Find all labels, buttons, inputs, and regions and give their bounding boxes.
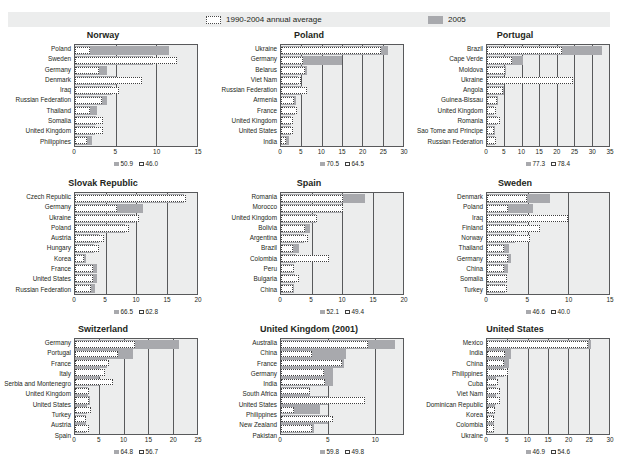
bar-annual-average: [281, 107, 297, 113]
footnote-swatch-avg-icon: [551, 310, 556, 314]
x-tick-label: 0: [484, 296, 488, 304]
plot-row: PolandSwedenGermanyDenmarkIraqRussian Fe…: [0, 44, 206, 147]
panel-footnote: 52.149.4: [280, 308, 404, 316]
bar-annual-average: [281, 47, 381, 53]
x-tick-label: 20: [170, 436, 177, 444]
footnote-swatch-avg-icon: [139, 310, 144, 314]
bar-slot: [75, 116, 197, 125]
category-label: Pakistan: [206, 431, 277, 441]
category-label: Bulgaria: [206, 274, 277, 284]
footnote-value-average: 64.5: [352, 160, 364, 167]
category-label: Thailand: [412, 243, 483, 253]
bar-annual-average: [487, 245, 504, 251]
category-label: United States: [206, 400, 277, 410]
bar-annual-average: [281, 351, 312, 357]
category-label: Ukraine: [412, 75, 483, 85]
x-tick-label: 15: [163, 296, 170, 304]
category-label: Germany: [0, 65, 71, 75]
footnote-swatch-2005-icon: [526, 450, 531, 454]
x-tick-label: 0: [484, 148, 488, 156]
legend-swatch-2005-icon: [428, 16, 443, 24]
bar-slot: [75, 86, 197, 95]
bar-group: [75, 45, 197, 146]
category-label: Sweden: [0, 54, 71, 64]
bar-slot: [487, 254, 609, 263]
x-tick-label: 5: [526, 296, 530, 304]
category-label: France: [206, 106, 277, 116]
legend-entry-2005: 2005: [428, 16, 466, 24]
category-label: Ukraine: [412, 431, 483, 441]
bar-annual-average: [281, 57, 303, 63]
bar-slot: [75, 340, 197, 349]
category-label: Hungary: [0, 243, 71, 253]
bar-slot: [75, 224, 197, 233]
category-label: Austria: [0, 233, 71, 243]
bar-annual-average: [487, 351, 505, 357]
bar-annual-average: [487, 47, 562, 53]
category-label: Korea: [0, 254, 71, 264]
x-tick-label: 15: [338, 148, 345, 156]
bar-annual-average: [487, 235, 530, 241]
bar-slot: [487, 214, 609, 223]
x-tick-label: 30: [606, 436, 613, 444]
x-tick-label: 0: [484, 436, 488, 444]
category-label: Colombia: [206, 254, 277, 264]
bar-annual-average: [75, 285, 91, 291]
bar-annual-average: [75, 67, 99, 73]
bar-slot: [281, 340, 403, 349]
bar-annual-average: [75, 87, 119, 93]
x-axis: 051015202530: [280, 147, 404, 160]
bar-annual-average: [281, 425, 312, 431]
x-tick-label: 20: [565, 436, 572, 444]
footnote-swatch-avg-icon: [139, 450, 144, 454]
bar-slot: [487, 66, 609, 75]
category-label: United Kingdom: [206, 213, 277, 223]
bar-slot: [75, 66, 197, 75]
bar-slot: [487, 76, 609, 85]
panel-footnote: 46.954.6: [486, 448, 610, 456]
x-tick-label: 10: [372, 436, 379, 444]
category-label: Russian Federation: [206, 85, 277, 95]
category-label: India: [206, 137, 277, 147]
bar-annual-average: [487, 107, 496, 113]
bar-slot: [487, 340, 609, 349]
plot-area: [74, 44, 198, 147]
category-label: Viet Nam: [206, 75, 277, 85]
bar-slot: [281, 368, 403, 377]
bar-annual-average: [75, 369, 105, 375]
bar-annual-average: [75, 341, 135, 347]
category-label: Germany: [0, 338, 71, 348]
bar-slot: [487, 387, 609, 396]
category-label: Philippines: [412, 369, 483, 379]
bar-annual-average: [281, 369, 324, 375]
chart-panel: PortugalBrazilCape VerdeMoldovaUkraineAn…: [412, 30, 618, 178]
bar-slot: [281, 56, 403, 65]
bar-slot: [281, 96, 403, 105]
bar-annual-average: [75, 275, 93, 281]
bar-slot: [75, 415, 197, 424]
footnote-swatch-avg-icon: [551, 162, 556, 166]
plot-row: BrazilCape VerdeMoldovaUkraineAngolaGuin…: [412, 44, 618, 147]
bar-slot: [75, 126, 197, 135]
bar-slot: [281, 274, 403, 283]
footnote-swatch-2005-icon: [526, 162, 531, 166]
category-label: Spain: [0, 431, 71, 441]
category-label: France: [0, 359, 71, 369]
bar-slot: [487, 106, 609, 115]
bar-annual-average: [281, 388, 310, 394]
bar-annual-average: [487, 407, 495, 413]
panel-title: Switzerland: [0, 324, 206, 335]
x-axis: 0510152025: [74, 435, 198, 448]
panel-footnote: 64.856.7: [74, 448, 198, 456]
category-label: Colombia: [412, 420, 483, 430]
bar-annual-average: [281, 265, 294, 271]
bar-annual-average: [487, 379, 498, 385]
category-label: Brazil: [206, 243, 277, 253]
x-tick-label: 25: [571, 148, 578, 156]
bar-annual-average: [487, 360, 504, 366]
category-label: Morocco: [206, 202, 277, 212]
x-tick-label: 10: [132, 296, 139, 304]
x-tick-label: 5: [309, 296, 313, 304]
bar-annual-average: [487, 425, 494, 431]
category-label: South Africa: [206, 389, 277, 399]
